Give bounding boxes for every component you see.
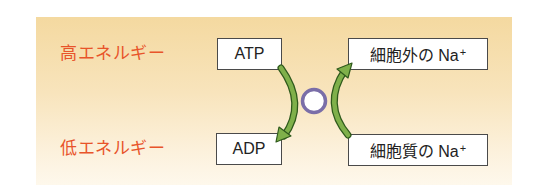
pump-circle-icon [303, 90, 326, 113]
arrows-overlay [0, 0, 537, 193]
na-pump-arrow-icon [334, 63, 352, 135]
atp-to-adp-arrow-icon [276, 68, 295, 142]
